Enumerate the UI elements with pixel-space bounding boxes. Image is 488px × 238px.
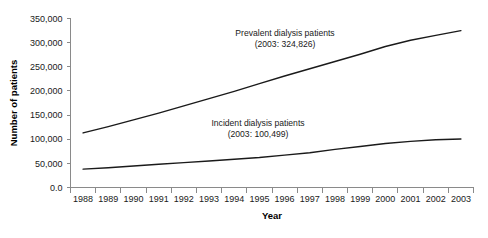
line-chart: 0.050,000100,000150,000200,000250,000300… — [0, 0, 488, 238]
x-axis-tick-label: 1988 — [73, 194, 93, 204]
x-axis-tick-label: 1998 — [325, 194, 345, 204]
prevalent-annotation-line1: Prevalent dialysis patients — [235, 28, 334, 38]
x-axis-tick-label: 2001 — [401, 194, 421, 204]
incident-annotation: Incident dialysis patients(2003: 100,499… — [211, 118, 304, 139]
x-axis-tick-label: 1995 — [249, 194, 269, 204]
y-axis-tick-label: 300,000 — [30, 38, 63, 48]
x-axis-tick-label: 2000 — [375, 194, 395, 204]
x-axis-tick-label: 1994 — [224, 194, 244, 204]
x-axis-tick-label: 1993 — [199, 194, 219, 204]
x-axis-tick-label: 1997 — [300, 194, 320, 204]
x-axis-tick-label: 1996 — [275, 194, 295, 204]
series-line-incident-dialysis-patients — [83, 139, 461, 169]
y-axis-tick-label: 100,000 — [30, 134, 63, 144]
y-axis-tick-label: 350,000 — [30, 14, 63, 24]
incident-annotation-line1: Incident dialysis patients — [211, 118, 304, 128]
x-axis-tick-label: 1999 — [350, 194, 370, 204]
x-axis-tick-label: 1991 — [149, 194, 169, 204]
x-axis-tick-label: 2003 — [451, 194, 471, 204]
incident-annotation-line2: (2003: 100,499) — [228, 129, 289, 139]
x-axis-tick-label: 2002 — [426, 194, 446, 204]
annotations-group: Prevalent dialysis patients(2003: 324,82… — [211, 28, 334, 139]
y-axis-tick-label: 0.0 — [50, 183, 63, 193]
x-axis-tick-label: 1990 — [123, 194, 143, 204]
prevalent-annotation-line2: (2003: 324,826) — [255, 39, 316, 49]
x-axis: 1988198919901991199219931994199519961997… — [71, 188, 474, 205]
chart-container: 0.050,000100,000150,000200,000250,000300… — [0, 0, 488, 238]
y-axis-title: Number of patients — [8, 60, 19, 147]
x-axis-title: Year — [262, 210, 282, 221]
y-axis-tick-label: 200,000 — [30, 86, 63, 96]
y-axis-tick-label: 150,000 — [30, 110, 63, 120]
y-axis: 0.050,000100,000150,000200,000250,000300… — [30, 14, 71, 193]
x-axis-tick-label: 1992 — [174, 194, 194, 204]
data-series-group — [83, 31, 461, 169]
y-axis-tick-label: 250,000 — [30, 62, 63, 72]
x-axis-tick-label: 1989 — [98, 194, 118, 204]
prevalent-annotation: Prevalent dialysis patients(2003: 324,82… — [235, 28, 334, 49]
y-axis-tick-label: 50,000 — [35, 159, 63, 169]
